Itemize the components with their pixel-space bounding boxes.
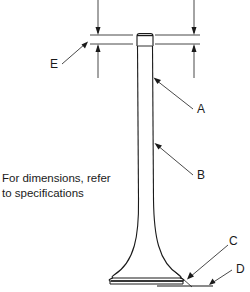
leader-d [209, 270, 232, 285]
dimension-arrows-right [192, 0, 197, 78]
valve-stem-tip [137, 34, 153, 47]
seat-angle-line [174, 271, 192, 287]
note-line-2: to specifications [2, 186, 132, 201]
leader-c [187, 245, 228, 280]
dimensions-note: For dimensions, refer to specifications [2, 171, 132, 201]
callout-b: B [197, 169, 205, 181]
valve-stem [138, 46, 154, 200]
callout-a: A [197, 103, 205, 115]
callout-c: C [229, 235, 238, 247]
dimension-e-lines [90, 35, 200, 44]
note-line-1: For dimensions, refer [2, 171, 132, 186]
leader-e [62, 42, 88, 65]
dimension-arrows-left [96, 0, 101, 78]
callout-e: E [50, 58, 58, 70]
valve-diagram [0, 0, 250, 292]
leader-b [155, 143, 194, 175]
valve-head [109, 200, 184, 284]
leader-a [154, 78, 194, 110]
callout-d: D [236, 263, 245, 275]
